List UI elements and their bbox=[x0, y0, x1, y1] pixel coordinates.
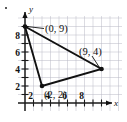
x-tick-label-2: 2 bbox=[28, 91, 33, 101]
y-tick-label-6: 6 bbox=[15, 48, 20, 58]
point-label-0-9: (0, 9) bbox=[45, 23, 68, 35]
y-tick-label-8: 8 bbox=[15, 31, 20, 41]
x-axis-label: x bbox=[113, 98, 118, 108]
point-label-2-2: (2, 2) bbox=[44, 89, 67, 101]
triangle-plot-svg: 2 4 6 8 2 4 6 8 x y (0, 9) (9, 4) (2, 2) bbox=[0, 0, 127, 122]
vertex-point-9-4 bbox=[99, 67, 104, 72]
coordinate-plane-figure: 2 4 6 8 2 4 6 8 x y (0, 9) (9, 4) (2, 2) bbox=[0, 0, 127, 122]
y-axis-label: y bbox=[28, 4, 33, 14]
y-axis-arrow bbox=[22, 12, 27, 18]
vertex-point-2-2 bbox=[40, 84, 45, 89]
y-tick-label-2: 2 bbox=[15, 82, 20, 92]
x-axis-arrow bbox=[106, 100, 112, 105]
x-tick-label-8: 8 bbox=[79, 91, 84, 101]
point-label-9-4: (9, 4) bbox=[79, 46, 102, 58]
print-speck bbox=[5, 7, 7, 9]
vertex-point-0-9 bbox=[23, 24, 28, 29]
y-tick-label-4: 4 bbox=[15, 65, 20, 75]
